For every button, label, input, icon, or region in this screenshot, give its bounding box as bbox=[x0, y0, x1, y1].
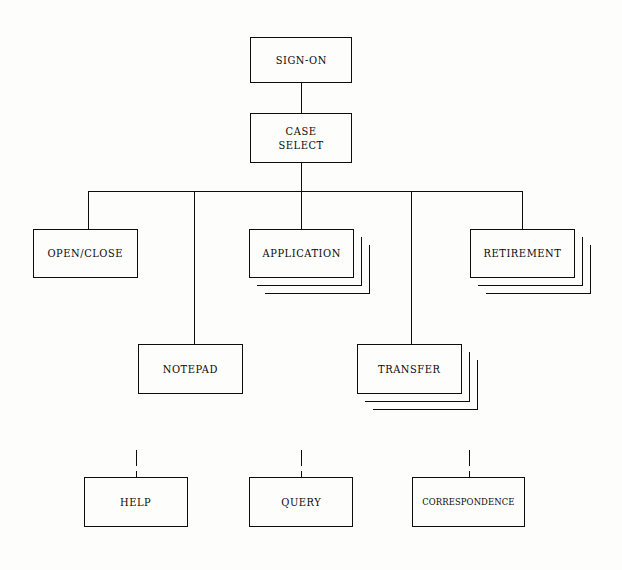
connector-horizontal-bus bbox=[88, 191, 522, 192]
node-transfer[interactable]: TRANSFER bbox=[357, 344, 462, 394]
node-label-sign-on: SIGN-ON bbox=[275, 53, 326, 67]
connector-bus-notepad bbox=[194, 191, 195, 345]
node-label-query: QUERY bbox=[281, 495, 321, 509]
connector-dashed-correspondence-upper bbox=[469, 450, 470, 466]
node-query[interactable]: QUERY bbox=[249, 477, 353, 527]
node-case-select[interactable]: CASE SELECT bbox=[250, 113, 352, 163]
node-label-help: HELP bbox=[120, 495, 151, 509]
node-notepad[interactable]: NOTEPAD bbox=[138, 344, 243, 394]
connector-dashed-query-upper bbox=[301, 450, 302, 466]
connector-caseselect-bus bbox=[301, 163, 302, 192]
node-correspondence[interactable]: CORRESPONDENCE bbox=[412, 477, 525, 527]
node-retirement[interactable]: RETIREMENT bbox=[470, 229, 575, 278]
node-label-case-select: CASE SELECT bbox=[278, 124, 323, 152]
node-label-application: APPLICATION bbox=[262, 246, 340, 260]
connector-bus-application bbox=[301, 191, 302, 230]
connector-signon-caseselect bbox=[301, 83, 302, 113]
connector-bus-open-close bbox=[88, 191, 89, 230]
node-open-close[interactable]: OPEN/CLOSE bbox=[33, 229, 138, 278]
connector-bus-transfer bbox=[411, 191, 412, 345]
connector-dashed-help-upper bbox=[136, 450, 137, 466]
node-application[interactable]: APPLICATION bbox=[249, 229, 354, 278]
node-label-notepad: NOTEPAD bbox=[163, 362, 218, 376]
node-help[interactable]: HELP bbox=[84, 477, 188, 527]
node-sign-on[interactable]: SIGN-ON bbox=[250, 37, 352, 83]
node-label-transfer: TRANSFER bbox=[378, 362, 441, 376]
node-label-open-close: OPEN/CLOSE bbox=[48, 246, 124, 260]
node-label-retirement: RETIREMENT bbox=[484, 246, 562, 260]
node-label-correspondence: CORRESPONDENCE bbox=[422, 496, 514, 509]
flowchart-canvas: SIGN-ON CASE SELECT OPEN/CLOSE APPLICATI… bbox=[0, 0, 622, 570]
connector-bus-retirement bbox=[522, 191, 523, 230]
